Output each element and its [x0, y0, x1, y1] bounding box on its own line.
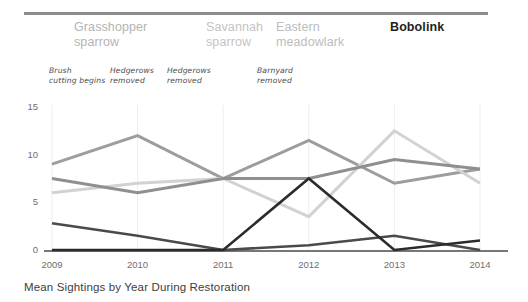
x-tick-2014: 2014: [457, 259, 503, 270]
y-tick-0: 0: [14, 244, 38, 255]
chart-figure: GrasshoppersparrowSavannahsparrowEastern…: [0, 0, 528, 302]
series-line-eastern-meadowlark: [52, 159, 480, 192]
series-line-eastern-meadowlark-low: [52, 223, 480, 250]
x-tick-2012: 2012: [286, 259, 332, 270]
x-tick-2010: 2010: [115, 259, 161, 270]
x-tick-2009: 2009: [29, 259, 75, 270]
series-lines: [52, 131, 480, 250]
y-tick-5: 5: [14, 196, 38, 207]
plot-area: 051015 200920102011201220132014: [0, 0, 528, 302]
line-chart-svg: [0, 0, 528, 302]
x-tick-2011: 2011: [200, 259, 246, 270]
chart-caption: Mean Sightings by Year During Restoratio…: [24, 281, 250, 293]
y-tick-10: 10: [14, 149, 38, 160]
y-tick-15: 15: [14, 101, 38, 112]
x-tick-2013: 2013: [371, 259, 417, 270]
